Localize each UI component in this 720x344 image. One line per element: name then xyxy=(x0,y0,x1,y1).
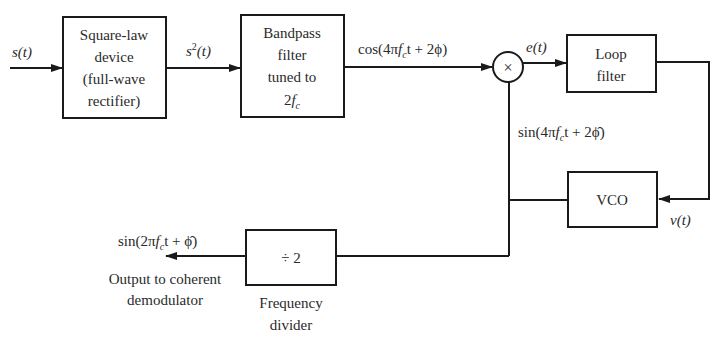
block-label-line: filter xyxy=(596,68,625,84)
loop-filter-block: Loop filter xyxy=(567,35,656,92)
block-label-line: tuned to xyxy=(268,69,317,85)
output-caption-line: demodulator xyxy=(127,292,203,308)
block-label-line: rectifier) xyxy=(88,93,140,110)
block-label: ÷ 2 xyxy=(281,250,300,266)
output-signal-label: sin(2πfct + ϕ̂) xyxy=(118,233,197,252)
frequency-divider-block: ÷ 2 Frequency divider xyxy=(246,230,336,333)
block-label: VCO xyxy=(596,192,628,208)
squaring-loop-diagram: Square-law device (full-wave rectifier) … xyxy=(0,0,720,344)
bpf-output-label: cos(4πfct + 2ϕ) xyxy=(358,41,447,60)
vco-output-label: sin(4πfct + 2ϕ̂) xyxy=(518,124,605,143)
output-caption-line: Output to coherent xyxy=(109,271,222,287)
block-label-line: (full-wave xyxy=(83,71,146,88)
squared-signal-label: s2(t) xyxy=(186,41,211,60)
block-caption-line: divider xyxy=(270,317,313,333)
multiplier: × xyxy=(493,52,523,82)
block-caption-line: Frequency xyxy=(259,295,323,311)
block-label-line: Bandpass xyxy=(263,25,321,41)
square-law-device-block: Square-law device (full-wave rectifier) xyxy=(63,17,166,118)
control-signal-label: v(t) xyxy=(670,212,691,229)
block-label-line: filter xyxy=(277,47,306,63)
bandpass-filter-block: Bandpass filter tuned to 2fc xyxy=(241,15,344,117)
control-signal-wire xyxy=(656,62,709,199)
multiply-symbol: × xyxy=(503,59,512,76)
error-signal-label: e(t) xyxy=(526,39,547,56)
block-label-line: device xyxy=(94,49,133,65)
input-signal-label: s(t) xyxy=(12,44,32,61)
vco-block: VCO xyxy=(568,172,657,227)
block-label-line: Square-law xyxy=(80,27,148,43)
block-label-line: Loop xyxy=(595,46,627,62)
